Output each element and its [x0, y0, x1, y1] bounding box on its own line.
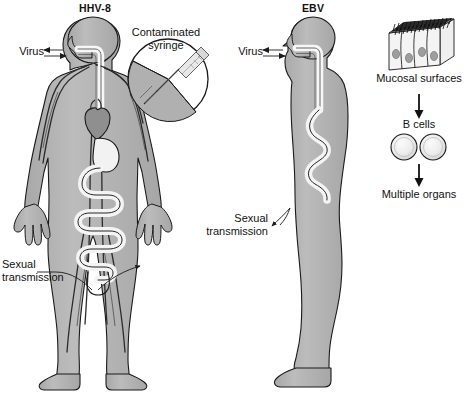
hhv8-foot-right: [106, 374, 147, 390]
contaminated-syringe-label-line2: syringe: [118, 39, 214, 52]
flow-step-b-cells-label: B cells: [386, 118, 452, 131]
ebv-sexual-transmission-label: Sexual transmission: [186, 212, 268, 238]
hhv8-virus-label: Virus: [0, 45, 44, 58]
ebv-sexual-transmission-line1: Sexual: [186, 212, 268, 225]
contaminated-syringe-label: Contaminated syringe: [118, 26, 214, 51]
ebv-virus-label: Virus: [215, 45, 263, 58]
flow-step-multiple-organs-label: Multiple organs: [365, 188, 466, 201]
flowchart-group: [389, 18, 454, 187]
hhv8-sexual-transmission-line1: Sexual: [2, 258, 76, 271]
hhv8-panel-title: HHV-8: [60, 2, 130, 15]
two-round-cells-icon: [391, 134, 446, 160]
hhv8-sexual-transmission-label: Sexual transmission: [2, 258, 76, 284]
ebv-foot: [274, 368, 331, 387]
ebv-panel-title: EBV: [278, 2, 348, 15]
hhv8-sexual-transmission-line2: transmission: [2, 271, 76, 284]
ebv-sexual-transmission-line2: transmission: [186, 225, 268, 238]
hhv8-virus-arrows: [44, 50, 66, 56]
ebv-body-figure: [274, 17, 348, 387]
contaminated-syringe-label-line1: Contaminated: [118, 26, 214, 39]
hhv8-cranium: [68, 17, 118, 63]
ebv-body-silhouette: [283, 18, 348, 377]
flow-step-mucosal-surfaces-label: Mucosal surfaces: [366, 72, 466, 85]
flow-arrow-mucosal-to-bcells: [415, 94, 424, 119]
hhv8-hand-right: [136, 204, 172, 245]
flow-arrow-bcells-to-organs: [415, 164, 424, 187]
hhv8-hand-left: [14, 204, 50, 245]
epithelial-cell-block-icon: [389, 18, 454, 70]
ebv-virus-arrows: [263, 50, 285, 56]
hhv8-foot-left: [39, 374, 80, 390]
ebv-sexual-transmission-leader: [272, 208, 290, 226]
